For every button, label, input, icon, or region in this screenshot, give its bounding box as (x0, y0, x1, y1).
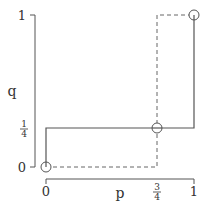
y-axis (30, 15, 35, 167)
x-axis (46, 179, 194, 184)
dashed-best-response-line (46, 15, 194, 167)
y-axis-label: q (8, 83, 17, 99)
y-tick-label-quarter-numerator: 1 (21, 119, 27, 129)
solid-best-response-line (46, 15, 194, 167)
y-tick-label-0: 0 (18, 160, 26, 175)
x-axis-label: p (116, 185, 125, 201)
best-response-diagram: 1 q 1 4 0 0 p 3 4 1 (0, 0, 208, 208)
x-tick-label-0: 0 (42, 184, 50, 199)
x-tick-label-1: 1 (190, 184, 198, 199)
x-tick-label-three-quarters-numerator: 3 (154, 182, 160, 192)
y-tick-label-quarter-denominator: 4 (21, 129, 27, 139)
x-tick-label-three-quarters-denominator: 4 (154, 192, 160, 202)
y-tick-label-1: 1 (18, 8, 26, 23)
